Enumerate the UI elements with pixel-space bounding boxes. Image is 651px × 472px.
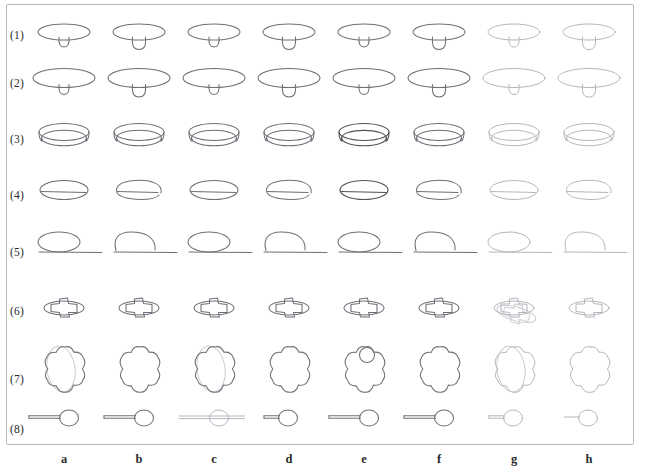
shape-cell-spoon-with-handle-e: [327, 400, 401, 458]
shape-cell-large-capped-table-h: [552, 54, 626, 112]
shape-cell-ellipse-on-ground-line-f: [402, 222, 476, 280]
shape-cell-ellipse-with-chord-f: [402, 166, 476, 224]
shape-cell-ellipse-with-chord-d: [252, 166, 326, 224]
shape-cell-open-bowl-ring-g: [477, 110, 551, 168]
shape-cell-large-capped-table-b: [102, 54, 176, 112]
shape-cell-spoon-with-handle-c: [177, 400, 251, 458]
shape-cell-ellipse-on-ground-line-e: [327, 222, 401, 280]
shape-cell-large-capped-table-d: [252, 54, 326, 112]
shape-cell-cross-through-disc-a: [27, 282, 101, 340]
shape-cell-spoon-with-handle-h: [552, 400, 626, 458]
shape-cell-spoon-with-handle-d: [252, 400, 326, 458]
shape-cell-ellipse-with-chord-c: [177, 166, 251, 224]
shape-cell-cloud-blob-with-ellipse-b: [102, 340, 176, 398]
shape-cell-large-capped-table-a: [27, 54, 101, 112]
shape-cell-ellipse-on-ground-line-g: [477, 222, 551, 280]
shape-cell-ellipse-on-ground-line-h: [552, 222, 626, 280]
shape-cell-open-bowl-ring-b: [102, 110, 176, 168]
shape-cell-open-bowl-ring-c: [177, 110, 251, 168]
shape-cell-large-capped-table-c: [177, 54, 251, 112]
shape-cell-ellipse-with-chord-a: [27, 166, 101, 224]
shape-cell-large-capped-table-e: [327, 54, 401, 112]
shape-cell-cross-through-disc-h: [552, 282, 626, 340]
shape-cell-open-bowl-ring-a: [27, 110, 101, 168]
shape-cell-ellipse-with-chord-g: [477, 166, 551, 224]
shape-cell-cloud-blob-with-ellipse-d: [252, 340, 326, 398]
shape-cell-spoon-with-handle-g: [477, 400, 551, 458]
shape-cell-open-bowl-ring-h: [552, 110, 626, 168]
figure-plate: (1) (2) (3) (4) (5) (6) (7) (8) a b c d …: [0, 0, 651, 472]
shape-cell-ellipse-with-chord-e: [327, 166, 401, 224]
shape-cell-cloud-blob-with-ellipse-a: [27, 340, 101, 398]
shape-cell-large-capped-table-f: [402, 54, 476, 112]
shape-cell-ellipse-on-ground-line-b: [102, 222, 176, 280]
shape-cell-cross-through-disc-b: [102, 282, 176, 340]
shape-cell-ellipse-with-chord-h: [552, 166, 626, 224]
shape-cell-cloud-blob-with-ellipse-f: [402, 340, 476, 398]
shape-cell-ellipse-with-chord-b: [102, 166, 176, 224]
shape-cell-cross-through-disc-c: [177, 282, 251, 340]
shape-cell-ellipse-on-ground-line-c: [177, 222, 251, 280]
shape-cell-open-bowl-ring-f: [402, 110, 476, 168]
shape-cell-cross-through-disc-d: [252, 282, 326, 340]
shape-cell-spoon-with-handle-b: [102, 400, 176, 458]
shape-cell-cloud-blob-with-ellipse-e: [327, 340, 401, 398]
shape-cell-cloud-blob-with-ellipse-c: [177, 340, 251, 398]
shape-cell-cloud-blob-with-ellipse-g: [477, 340, 551, 398]
shape-cell-large-capped-table-g: [477, 54, 551, 112]
shape-cell-ellipse-on-ground-line-d: [252, 222, 326, 280]
shape-cell-spoon-with-handle-f: [402, 400, 476, 458]
shape-cell-ellipse-on-ground-line-a: [27, 222, 101, 280]
shape-cell-cross-through-disc-f: [402, 282, 476, 340]
shape-cell-spoon-with-handle-a: [27, 400, 101, 458]
shape-cell-open-bowl-ring-e: [327, 110, 401, 168]
shape-cell-open-bowl-ring-d: [252, 110, 326, 168]
shape-cell-cross-through-disc-e: [327, 282, 401, 340]
shape-cell-cloud-blob-with-ellipse-h: [552, 340, 626, 398]
shape-cell-cross-through-disc-g: [477, 282, 551, 340]
